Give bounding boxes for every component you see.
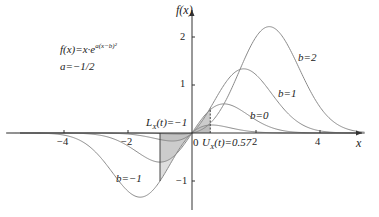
series-label-b2: b=2 (298, 52, 316, 63)
axes (20, 10, 362, 210)
upper-rest: (t)=0.57 (214, 136, 251, 148)
upper-U: U (202, 136, 210, 148)
chart-canvas (0, 0, 379, 217)
param-label: a=−1/2 (60, 61, 94, 72)
y-tick-label-neg1: −1 (176, 176, 187, 187)
y-tick-label-1: 1 (180, 79, 185, 90)
origin-label: 0 (193, 137, 199, 148)
lower-bound-label: LX(t)=−1 (146, 117, 187, 131)
formula-exponent: a(x−b)² (95, 42, 117, 50)
y-axis-label: f(x) (176, 4, 193, 16)
formula-main: f(x)=x·e (60, 43, 95, 55)
y-tick-label-2: 2 (180, 32, 185, 43)
formula-label: f(x)=x·ea(x−b)² (60, 43, 117, 55)
series-label-b0: b=0 (250, 110, 268, 121)
x-axis-label: x (356, 137, 361, 149)
series-label-b1: b=1 (278, 88, 296, 99)
lower-rest: (t)=−1 (156, 116, 187, 128)
upper-bound-label: UX(t)=0.57 (202, 137, 251, 151)
series-label-bm1: b=−1 (116, 173, 142, 184)
x-tick-label-2: 2 (252, 137, 257, 148)
x-tick-label-4: 4 (315, 137, 320, 148)
x-tick-label-neg2: −2 (121, 137, 132, 148)
x-tick-label-neg4: −4 (57, 137, 68, 148)
